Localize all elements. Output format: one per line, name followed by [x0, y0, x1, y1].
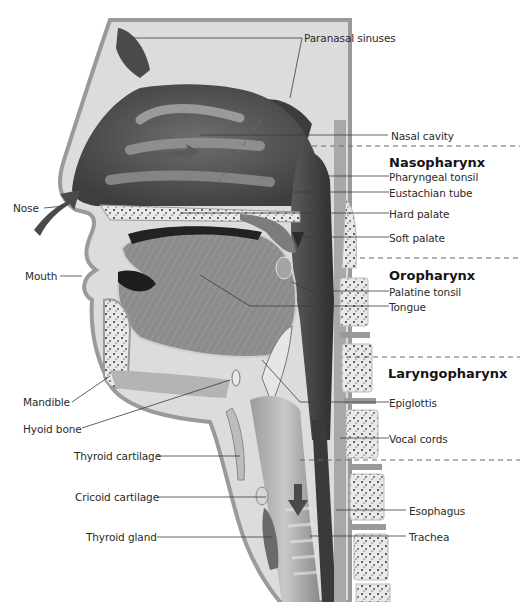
label-hyoid-bone: Hyoid bone — [23, 423, 82, 435]
region-nasopharynx: Nasopharynx — [389, 155, 485, 170]
hyoid-shape — [232, 370, 240, 386]
label-tongue: Tongue — [389, 301, 426, 313]
label-nose: Nose — [13, 202, 39, 214]
label-epiglottis: Epiglottis — [389, 397, 437, 409]
region-oropharynx: Oropharynx — [389, 268, 475, 283]
label-palatine-tonsil: Palatine tonsil — [389, 286, 461, 298]
palatine-tonsil-shape — [276, 257, 292, 279]
label-vocal-cords: Vocal cords — [389, 433, 448, 445]
label-nasal-cavity: Nasal cavity — [391, 130, 454, 142]
region-laryngopharynx: Laryngopharynx — [388, 366, 507, 381]
label-thyroid-gland: Thyroid gland — [86, 531, 157, 543]
label-mandible: Mandible — [23, 396, 70, 408]
pharynx-anatomy-diagram: Paranasal sinuses Nasal cavity Nasophary… — [0, 0, 529, 602]
airflow-arrow-nose — [34, 190, 80, 236]
label-soft-palate: Soft palate — [389, 232, 445, 244]
label-paranasal-sinuses: Paranasal sinuses — [304, 32, 396, 44]
label-trachea: Trachea — [409, 531, 449, 543]
label-eustachian-tube: Eustachian tube — [389, 187, 472, 199]
label-esophagus: Esophagus — [409, 505, 465, 517]
label-hard-palate: Hard palate — [389, 208, 449, 220]
label-thyroid-cartilage: Thyroid cartilage — [74, 450, 161, 462]
label-cricoid-cartilage: Cricoid cartilage — [75, 491, 159, 503]
tongue-shape — [118, 227, 296, 357]
label-pharyngeal-tonsil: Pharyngeal tonsil — [389, 171, 478, 183]
label-mouth: Mouth — [25, 270, 57, 282]
cricoid-shape — [256, 487, 268, 505]
